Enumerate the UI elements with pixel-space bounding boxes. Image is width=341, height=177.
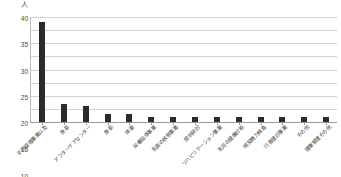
y-axis-tick-label: 10 xyxy=(21,172,28,177)
bar-slot xyxy=(75,17,97,122)
x-axis-category-label: 乳児の健康診断 xyxy=(241,124,245,128)
y-axis-tick-label: 35 xyxy=(21,41,28,48)
y-axis-unit-label: 人 xyxy=(21,1,28,9)
gridline: 0 xyxy=(31,122,337,123)
x-axis-category-label: 身長 xyxy=(110,124,114,128)
bar-slot xyxy=(271,17,293,122)
bar-series xyxy=(31,17,337,122)
x-axis-category-label: 健康管理その他 xyxy=(328,124,332,128)
y-axis-tick-label: 20 xyxy=(21,120,28,127)
x-axis-category-label: アフターケアセンター xyxy=(88,124,92,128)
bar-slot xyxy=(228,17,250,122)
bar-slot xyxy=(97,17,119,122)
y-axis-tick-label: 40 xyxy=(21,15,28,22)
bar-chart: 人 0510152025303540 子防接種事業以及身長アフターケアセンター身… xyxy=(0,0,341,177)
bar-slot xyxy=(206,17,228,122)
x-axis-category-label: 行音健診事業 xyxy=(284,124,288,128)
y-axis-tick-label: 30 xyxy=(21,67,28,74)
bar-slot xyxy=(293,17,315,122)
bar-slot xyxy=(118,17,140,122)
x-axis-category-label: 身長 xyxy=(66,124,70,128)
x-axis-category-label: 体重 xyxy=(131,124,135,128)
x-axis-category-label: リハビリテーション事業 xyxy=(219,124,223,128)
x-axis-category-label: その他 xyxy=(306,124,310,128)
plot-area: 0510152025303540 xyxy=(30,17,337,123)
bar-slot xyxy=(250,17,272,122)
x-axis-category-labels: 子防接種事業以及身長アフターケアセンター身長体重栄養指導事業乳歯の状態事業屈折研… xyxy=(30,124,336,177)
x-axis-category-label: 乳歯の状態事業 xyxy=(175,124,179,128)
bar[interactable] xyxy=(83,106,89,122)
x-axis-category-label: 栄養指導事業 xyxy=(153,124,157,128)
bar-slot xyxy=(162,17,184,122)
bar[interactable] xyxy=(105,114,111,122)
x-axis-category-label: 子防接種事業以及 xyxy=(44,124,48,128)
bar-slot xyxy=(140,17,162,122)
bar-slot xyxy=(184,17,206,122)
x-axis-category-label: 屈折研診 xyxy=(197,124,201,128)
bar[interactable] xyxy=(126,114,132,122)
x-axis-category-label: 視覚聴力検査 xyxy=(263,124,267,128)
bar[interactable] xyxy=(39,22,45,122)
bar[interactable] xyxy=(61,104,67,122)
bar-slot xyxy=(315,17,337,122)
bar-slot xyxy=(53,17,75,122)
y-axis-tick-label: 25 xyxy=(21,93,28,100)
bar-slot xyxy=(31,17,53,122)
